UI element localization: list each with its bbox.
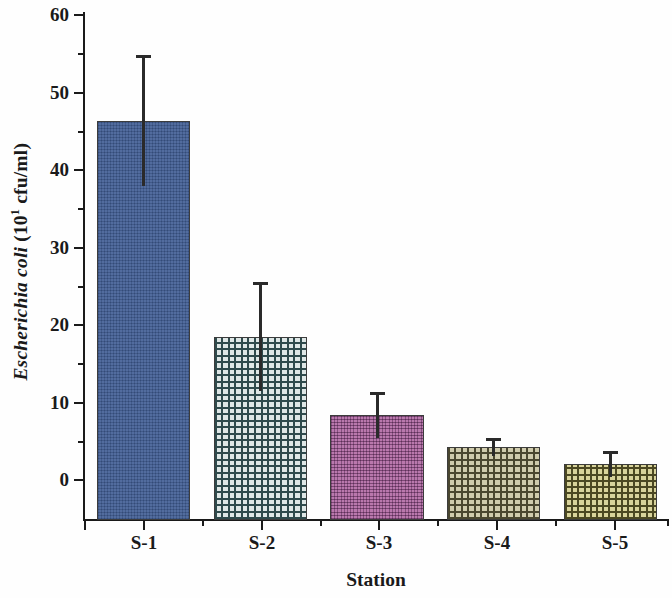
bar-chart-figure: Escherichia coli (101 cfu/ml) 60 50 40 3…: [0, 0, 672, 598]
y-axis-label-unit-prefix: (10: [10, 215, 31, 247]
y-tick-major-60: [74, 14, 85, 16]
x-tick-minor-1: [202, 519, 204, 526]
x-tick-major-s4: [496, 519, 498, 530]
error-bar-stem: [259, 282, 262, 391]
error-bar-cap-top: [253, 282, 268, 285]
x-tick-minor-4: [555, 519, 557, 526]
y-tick-label-60: 60: [29, 5, 69, 24]
y-tick-minor-25: [78, 286, 85, 288]
x-tick-label-s5: S-5: [575, 533, 655, 552]
y-axis-label-species: Escherichia coli: [10, 247, 31, 381]
error-bar-s5: [603, 451, 618, 477]
error-bar-s4: [486, 438, 501, 457]
y-tick-label-30: 30: [29, 238, 69, 257]
y-tick-label-50: 50: [29, 83, 69, 102]
error-bar-cap-top: [370, 392, 385, 395]
y-tick-minor-5: [78, 441, 85, 443]
y-tick-label-0: 0: [29, 470, 69, 489]
x-tick-minor-2: [320, 519, 322, 526]
y-tick-major-30: [74, 247, 85, 249]
x-tick-minor-3: [437, 519, 439, 526]
x-tick-label-s4: S-4: [457, 533, 537, 552]
y-tick-major-20: [74, 324, 85, 326]
error-bar-stem: [609, 451, 612, 477]
y-tick-minor-15: [78, 363, 85, 365]
error-bar-cap-top: [486, 438, 501, 441]
x-tick-major-s3: [378, 519, 380, 530]
x-axis-label: Station: [83, 569, 669, 591]
y-tick-label-40: 40: [29, 160, 69, 179]
bar-s4[interactable]: [447, 447, 540, 520]
x-tick-label-s2: S-2: [222, 533, 302, 552]
x-tick-major-s2: [261, 519, 263, 530]
error-bar-s3: [370, 392, 385, 438]
x-tick-major-s1: [143, 519, 145, 530]
plot-area: [85, 12, 669, 520]
y-tick-minor-45: [78, 131, 85, 133]
y-tick-label-10: 10: [29, 393, 69, 412]
error-bar-stem: [142, 55, 145, 186]
y-tick-label-20: 20: [29, 315, 69, 334]
error-bar-s2: [253, 282, 268, 391]
x-tick-label-s3: S-3: [339, 533, 419, 552]
y-tick-label-group: 60 50 40 30 20 10 0: [29, 0, 69, 520]
y-tick-major-10: [74, 402, 85, 404]
y-axis-label-unit-suffix: cfu/ml): [10, 143, 31, 209]
y-tick-major-50: [74, 92, 85, 94]
error-bar-cap-top: [603, 451, 618, 454]
y-tick-minor-55: [78, 53, 85, 55]
y-axis-label-exponent: 1: [8, 209, 22, 215]
error-bar-stem: [376, 392, 379, 438]
x-tick-label-s1: S-1: [104, 533, 184, 552]
y-tick-minor-35: [78, 208, 85, 210]
x-tick-major-left-edge: [84, 519, 86, 530]
x-tick-major-s5: [614, 519, 616, 530]
x-tick-minor-5: [667, 519, 669, 526]
y-tick-major-0: [74, 479, 85, 481]
y-tick-major-40: [74, 169, 85, 171]
error-bar-s1: [136, 55, 151, 186]
error-bar-cap-top: [136, 55, 151, 58]
